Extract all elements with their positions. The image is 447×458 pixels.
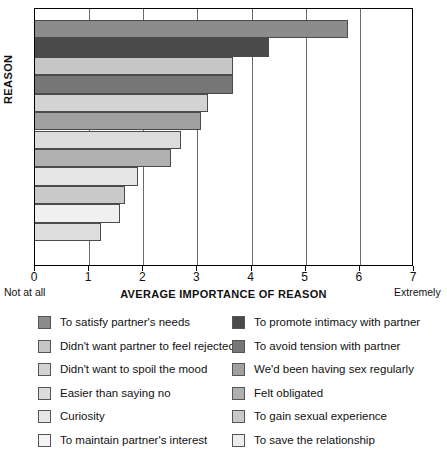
plot-area [34,8,413,266]
x-tick-label: 4 [236,270,266,284]
bar [34,75,233,93]
legend-item[interactable]: Felt obligated [232,382,420,406]
legend-item-label: To satisfy partner's needs [60,317,190,329]
legend-item[interactable]: To promote intimacy with partner [232,311,420,335]
legend-swatch-icon [38,434,51,447]
legend-item[interactable]: Easier than saying no [38,382,235,406]
legend-item[interactable]: To gain sexual experience [232,405,420,429]
legend-column-right: To promote intimacy with partnerTo avoid… [232,311,420,452]
legend-item-label: Felt obligated [254,388,323,400]
legend-item[interactable]: To avoid tension with partner [232,335,420,359]
legend-item[interactable]: To save the relationship [232,429,420,453]
chart-legend: To satisfy partner's needsDidn't want pa… [0,311,447,458]
legend-item-label: We'd been having sex regularly [254,364,414,376]
x-axis-tick-labels: 01234567 [0,270,447,286]
bar [34,186,125,204]
legend-item-label: Didn't want partner to feel rejected [60,341,235,353]
legend-swatch-icon [38,387,51,400]
legend-item[interactable]: Didn't want partner to feel rejected [38,335,235,359]
legend-item-label: Didn't want to spoil the mood [60,364,207,376]
legend-item-label: To maintain partner's interest [60,435,207,447]
x-tick-label: 3 [181,270,211,284]
legend-column-left: To satisfy partner's needsDidn't want pa… [38,311,235,452]
plot-area-wrapper: REASON 01234567 Not at all Extremely AVE… [0,0,447,300]
legend-swatch-icon [38,316,51,329]
legend-swatch-icon [232,363,245,376]
x-axis-title: AVERAGE IMPORTANCE OF REASON [0,288,447,300]
y-axis-title: REASON [2,0,14,104]
bar [34,57,233,75]
legend-item-label: Easier than saying no [60,388,171,400]
legend-item[interactable]: Curiosity [38,405,235,429]
bar [34,167,138,185]
legend-swatch-icon [232,434,245,447]
bar [34,20,348,38]
legend-item-label: To avoid tension with partner [254,341,400,353]
chart-figure: REASON 01234567 Not at all Extremely AVE… [0,0,447,458]
legend-item[interactable]: To maintain partner's interest [38,429,235,453]
bar [34,204,120,222]
x-tick-label: 5 [290,270,320,284]
bar [34,131,181,149]
legend-swatch-icon [232,410,245,423]
legend-item[interactable]: To satisfy partner's needs [38,311,235,335]
legend-item-label: Curiosity [60,411,105,423]
legend-swatch-icon [232,316,245,329]
legend-item[interactable]: We'd been having sex regularly [232,358,420,382]
x-tick-label: 2 [127,270,157,284]
bar [34,223,101,241]
x-tick-label: 6 [344,270,374,284]
x-tick-label: 1 [73,270,103,284]
bar [34,38,269,56]
legend-swatch-icon [232,387,245,400]
legend-item-label: To promote intimacy with partner [254,317,420,329]
legend-item[interactable]: Didn't want to spoil the mood [38,358,235,382]
legend-swatch-icon [38,340,51,353]
legend-item-label: To save the relationship [254,435,375,447]
legend-swatch-icon [38,410,51,423]
legend-item-label: To gain sexual experience [254,411,387,423]
bar [34,149,171,167]
x-tick-label: 7 [398,270,428,284]
bar [34,94,208,112]
x-tick-label: 0 [19,270,49,284]
bar [34,112,201,130]
legend-swatch-icon [38,363,51,376]
legend-swatch-icon [232,340,245,353]
bar-series [35,9,412,265]
